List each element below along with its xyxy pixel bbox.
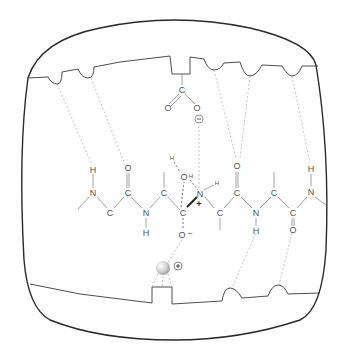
atom-h1: H (90, 165, 97, 175)
hbond-o3-bump (279, 233, 292, 285)
atom-c8: C (290, 208, 297, 218)
bond-n2-c3 (150, 197, 160, 208)
atom-o1: O (124, 163, 131, 173)
atom-n3-charge: + (196, 199, 201, 209)
atom-water-h2: H (189, 173, 193, 179)
bond-c2-n2 (131, 197, 142, 208)
atom-c5: C (217, 208, 224, 218)
bottom-enzyme-surface (30, 284, 320, 304)
bond-n3-c5 (205, 197, 214, 208)
atom-n1: N (90, 188, 97, 198)
atom-c3: C (161, 188, 168, 198)
hbond-ominus-metal (168, 240, 182, 262)
bond-c4-water-o (181, 182, 184, 207)
atom-water-o: O (180, 172, 187, 182)
atom-h3: H (253, 226, 260, 236)
atom-h2: H (143, 228, 150, 238)
atom-c6: C (234, 188, 241, 198)
bond-c7-c8 (278, 197, 289, 208)
hbond-h3-bump (232, 233, 256, 288)
bond-n3-h (204, 185, 214, 190)
bond-n1-c1 (97, 197, 107, 208)
atom-water-h: H (170, 155, 174, 161)
bond-c1-c2 (114, 197, 124, 208)
bond-n1-left (78, 197, 89, 209)
outer-frame (22, 20, 327, 340)
atom-c7: C (271, 188, 278, 198)
atom-c2: C (125, 188, 132, 198)
hbond-metal-notch-c (168, 274, 172, 287)
hbond-metal-notch-b (162, 276, 163, 287)
hbond-o1-pocket (91, 78, 125, 165)
bond-n4-c7 (260, 197, 271, 208)
bond-c5-c6 (224, 197, 234, 208)
atom-c1: C (107, 208, 114, 218)
metal-ion-sphere (156, 261, 170, 275)
hbond-h1-pocket (57, 84, 92, 165)
hbond-o2-pocket-b (240, 76, 250, 158)
atom-c4: C (180, 208, 187, 218)
atom-o-minus: O (178, 230, 185, 240)
bond-n5-right (315, 197, 326, 205)
hbond-o2-pocket-a (214, 70, 236, 158)
hbond-h4-pocket (292, 76, 310, 163)
bond-c3-c4 (168, 197, 180, 210)
carboxylate-carbon: C (179, 85, 186, 95)
bond-c6-n4 (241, 197, 252, 208)
atom-n5: N (308, 187, 315, 197)
hbond-water-h (174, 162, 180, 172)
atom-n4: N (253, 208, 260, 218)
carboxylate-oxygen-left: O (164, 103, 171, 113)
active-site-diagram: C O O H N C O C N H C H O H N H + C O − … (0, 0, 348, 356)
carboxylate-oxygen-right: O (193, 103, 200, 113)
bond-c8-n5 (297, 197, 307, 208)
atom-o3: O (289, 225, 296, 235)
atom-o2: O (233, 161, 240, 171)
atom-o-minus-charge: − (187, 228, 192, 238)
atom-n3: N (197, 189, 204, 199)
atom-h4: H (308, 164, 315, 174)
hbond-metal-notch-a (152, 274, 158, 287)
atom-n3-h: H (215, 180, 219, 186)
atom-n2: N (143, 208, 150, 218)
top-enzyme-surface (28, 56, 318, 84)
